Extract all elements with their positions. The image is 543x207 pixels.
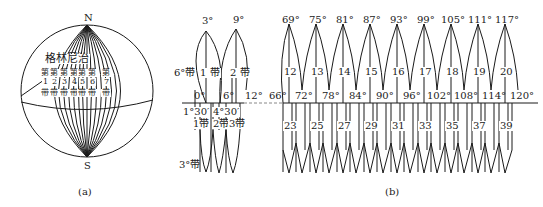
zone-5-prefix: 第 <box>77 69 87 77</box>
zone-1-number: 1 <box>42 78 49 86</box>
north-label: N <box>83 13 94 23</box>
six-zone-number: 19 <box>472 67 487 77</box>
central-meridian: 81° <box>335 15 355 25</box>
zone-6-prefix: 第 <box>87 69 97 77</box>
boundary-meridian: 66° <box>268 91 288 101</box>
boundary-meridian: 114° <box>481 91 507 101</box>
greenwich-label: 格林尼治 <box>44 54 90 64</box>
boundary-meridian: 102° <box>426 91 452 101</box>
central-meridian: 99° <box>416 15 436 25</box>
zone-3-number: 3 <box>61 78 68 86</box>
zone-2-number: 2 <box>51 78 58 86</box>
zone-6-suffix: 带 <box>87 89 97 97</box>
central-meridian: 105° <box>440 15 466 25</box>
three-zone-number: 37 <box>472 121 487 131</box>
projection-zone-diagram <box>0 0 543 207</box>
equator-0: 0° <box>193 91 206 101</box>
boundary-meridian: 108° <box>453 91 479 101</box>
equator-6: 6° <box>222 91 235 101</box>
zone-4-number: 4 <box>71 78 78 86</box>
three-zone-number: 31 <box>391 121 406 131</box>
boundary-meridian: 120° <box>509 91 535 101</box>
zone-7-suffix: 带 <box>101 89 111 97</box>
central-meridian: 75° <box>308 15 328 25</box>
six-zone-number: 20 <box>499 67 514 77</box>
meridian-9: 9° <box>232 15 245 25</box>
three-zone-number: 23 <box>283 121 298 131</box>
six-zone-number: 16 <box>391 67 406 77</box>
caption-a: (a) <box>78 186 92 197</box>
zone-2-prefix: 第 <box>49 69 59 77</box>
three-zone-number: 25 <box>310 121 325 131</box>
six-zone-number: 12 <box>283 67 298 77</box>
six-zone-number: 13 <box>310 67 325 77</box>
six-zone-number: 18 <box>445 67 460 77</box>
three-degree-lunes-right <box>283 103 512 173</box>
meridian-3: 3° <box>201 16 214 26</box>
six-zone-1: 1 带 <box>199 68 221 78</box>
equator-12: 12° <box>244 91 264 101</box>
boundary-meridian: 78° <box>321 91 341 101</box>
three-zone-number: 35 <box>445 121 460 131</box>
zone-7-number: 7 <box>103 78 110 86</box>
zone-7-prefix: 第 <box>101 69 111 77</box>
three-zone-3: 3带 <box>228 119 246 129</box>
boundary-meridian: 84° <box>348 91 368 101</box>
zone-3-prefix: 第 <box>59 69 69 77</box>
south-label: S <box>83 161 92 171</box>
zone-3-suffix: 带 <box>59 89 69 97</box>
central-meridian: 69° <box>281 15 301 25</box>
boundary-meridian: 96° <box>402 91 422 101</box>
three-zone-1: 1带 <box>192 119 210 129</box>
boundary-meridian: 72° <box>294 91 314 101</box>
caption-b: (b) <box>385 186 399 197</box>
meridian-4-30: 4°30′ <box>212 107 240 117</box>
six-zone-number: 14 <box>337 67 352 77</box>
boundary-meridian: 90° <box>375 91 395 101</box>
zone-6-number: 6 <box>89 78 96 86</box>
three-degree-zone-label: 3°带 <box>178 160 201 170</box>
meridian-1-30: 1°30′ <box>182 107 210 117</box>
six-zone-number: 17 <box>418 67 433 77</box>
zone-5-suffix: 带 <box>77 89 87 97</box>
six-zone-2: 2 带 <box>229 68 251 78</box>
six-zone-number: 15 <box>364 67 379 77</box>
central-meridian: 111° <box>467 15 493 25</box>
zone-5-number: 5 <box>79 78 86 86</box>
three-zone-number: 29 <box>364 121 379 131</box>
three-zone-number: 33 <box>418 121 433 131</box>
central-meridian: 93° <box>389 15 409 25</box>
three-zone-number: 39 <box>499 121 514 131</box>
six-degree-zone-label: 6°带 <box>173 68 196 78</box>
zone-2-suffix: 带 <box>49 89 59 97</box>
central-meridian: 117° <box>494 15 520 25</box>
three-zone-number: 27 <box>337 121 352 131</box>
central-meridian: 87° <box>362 15 382 25</box>
